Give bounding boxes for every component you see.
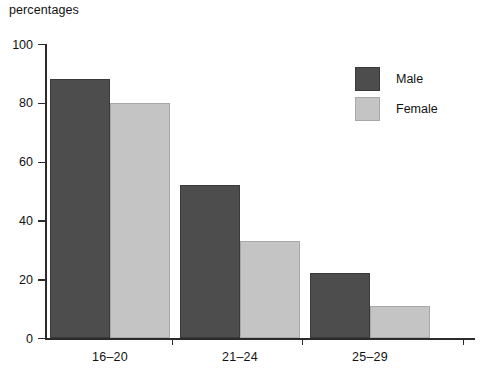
y-axis-line xyxy=(45,44,47,338)
y-axis-tick-mark: 20 xyxy=(38,279,45,280)
bar-female-21–24 xyxy=(240,241,300,338)
y-axis-tick-label: 0 xyxy=(26,332,33,345)
x-axis-tick-mark xyxy=(463,338,464,345)
legend-item-female: Female xyxy=(355,94,465,124)
bar-chart: percentages 020406080100 16–2021–2425–29… xyxy=(0,0,480,369)
bar-female-25–29 xyxy=(370,306,430,338)
x-axis-tick-mark xyxy=(302,338,303,345)
y-axis-tick-label: 100 xyxy=(12,38,33,51)
y-axis-tick-label: 60 xyxy=(19,156,33,169)
male-swatch xyxy=(355,67,380,91)
bar-female-16–20 xyxy=(110,103,170,338)
y-axis-tick-label: 80 xyxy=(19,97,33,110)
y-axis-tick-mark: 40 xyxy=(38,220,45,221)
y-axis-tick-mark: 80 xyxy=(38,103,45,104)
y-axis-tick-label: 20 xyxy=(19,273,33,286)
legend-item-male: Male xyxy=(355,64,465,94)
chart-legend: MaleFemale xyxy=(355,64,465,124)
x-axis-tick-mark xyxy=(172,338,173,345)
legend-item-label: Male xyxy=(396,72,423,86)
x-axis-category-label: 25–29 xyxy=(352,350,388,365)
female-swatch xyxy=(355,97,380,121)
x-axis-category-label: 21–24 xyxy=(222,350,258,365)
y-axis-tick-mark: 60 xyxy=(38,162,45,163)
bar-male-16–20 xyxy=(50,79,110,338)
y-axis-tick-mark: 100 xyxy=(38,44,45,45)
y-axis-tick-mark: 0 xyxy=(38,338,45,339)
chart-title: percentages xyxy=(9,3,79,18)
bar-male-21–24 xyxy=(180,185,240,338)
x-axis-category-label: 16–20 xyxy=(92,350,128,365)
bar-male-25–29 xyxy=(310,273,370,338)
x-axis-line xyxy=(45,338,475,340)
legend-item-label: Female xyxy=(396,102,438,116)
y-axis-tick-label: 40 xyxy=(19,215,33,228)
